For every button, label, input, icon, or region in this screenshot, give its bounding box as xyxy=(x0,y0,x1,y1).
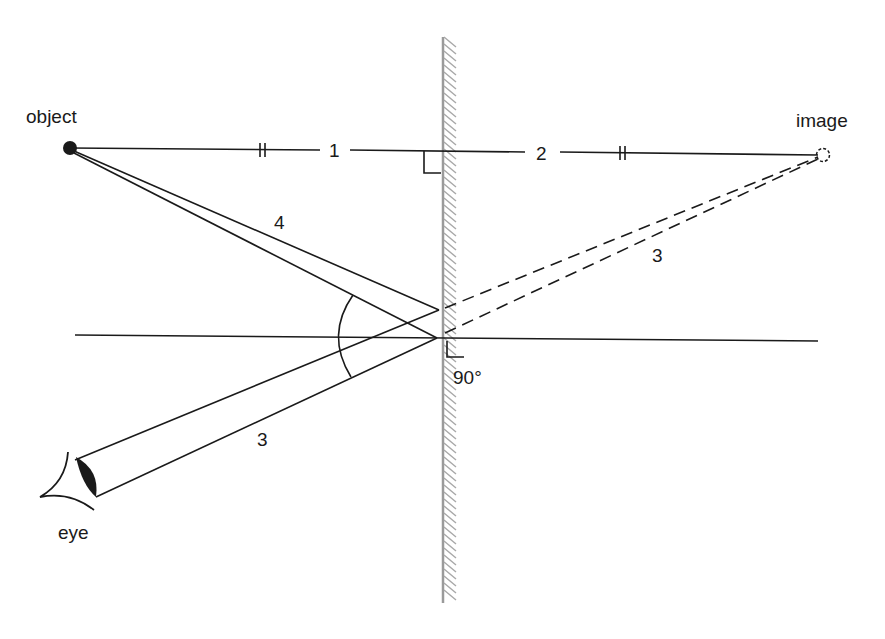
angle-arc xyxy=(338,295,353,377)
ray-4-label: 4 xyxy=(274,212,285,233)
object-label: object xyxy=(26,106,77,127)
plane-mirror-diagram: object image eye 1 2 4 3 3 90° xyxy=(0,0,885,639)
mirror xyxy=(443,37,456,603)
ray-3-label-virtual: 3 xyxy=(652,245,663,266)
incident-rays xyxy=(74,151,439,338)
image-label: image xyxy=(796,110,848,131)
eye-label: eye xyxy=(58,522,89,543)
angle-90-label: 90° xyxy=(453,367,482,388)
normal-line xyxy=(75,335,818,357)
image-point xyxy=(817,149,830,162)
ray-3-label: 3 xyxy=(257,429,268,450)
virtual-rays xyxy=(445,157,818,333)
right-angle-marker-top xyxy=(424,151,441,173)
distance-1-label: 1 xyxy=(329,140,340,161)
mirror-hatching xyxy=(444,37,456,600)
distance-2-label: 2 xyxy=(536,143,547,164)
eye-icon xyxy=(40,452,97,510)
